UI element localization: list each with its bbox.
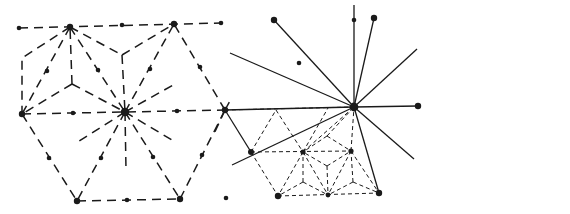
hierarchical-grid-diagram	[0, 0, 570, 214]
highest-level-lines	[19, 5, 418, 193]
